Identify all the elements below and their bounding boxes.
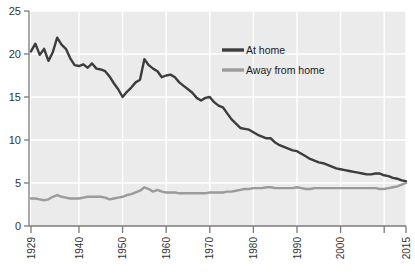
x-axis-tick-label: 1990: [292, 237, 303, 260]
line-chart: 0510152025192919401950196019701980199020…: [0, 0, 415, 277]
x-axis-tick-label: 2000: [335, 237, 346, 260]
y-axis-tick-label: 15: [9, 91, 21, 103]
legend-label-at-home: At home: [246, 44, 285, 56]
x-axis-tick-label: 1960: [161, 237, 172, 260]
x-axis-tick-label: 1950: [117, 237, 128, 260]
x-axis-tick-label: 1940: [74, 237, 85, 260]
legend-label-away-from-home: Away from home: [246, 64, 325, 76]
y-axis-tick-label: 5: [15, 177, 21, 189]
x-axis-tick-label: 1970: [204, 237, 215, 260]
y-axis-tick-label: 0: [15, 220, 21, 232]
y-axis-tick-label: 20: [9, 48, 21, 60]
y-axis-tick-label: 25: [9, 5, 21, 17]
plot-background: [31, 11, 406, 226]
x-axis-tick-label: 1929: [26, 237, 37, 260]
x-axis-tick-label: 1980: [248, 237, 259, 260]
x-axis-tick-label: 2015: [401, 237, 412, 260]
y-axis-tick-label: 10: [9, 134, 21, 146]
chart-canvas: 0510152025192919401950196019701980199020…: [0, 0, 415, 277]
